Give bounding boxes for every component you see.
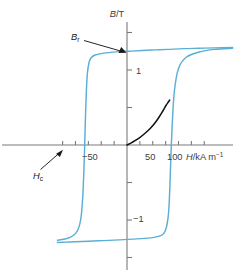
y-tick-label-1: 1 [136, 66, 141, 76]
upper-branch-curve [57, 48, 232, 241]
x-tick-label-neg50: −50 [82, 152, 98, 162]
x-axis-exponent: −1 [216, 151, 224, 158]
coercivity-arrow-line [41, 153, 61, 170]
x-tick-label-50: 50 [145, 152, 155, 162]
x-axis-unit: /kA m [193, 152, 217, 162]
coercivity-label: Hc [33, 171, 44, 182]
axes-group [2, 22, 233, 270]
remanence-subscript: r [77, 36, 80, 43]
remanence-arrow-head [119, 47, 127, 53]
y-tick-label-neg1: −1 [133, 214, 144, 224]
remanence-annotation: Br [71, 32, 127, 53]
coercivity-arrow-head [56, 150, 63, 157]
coercivity-subscript: c [40, 175, 44, 182]
y-axis-label: B/T [110, 9, 125, 19]
hysteresis-plot-svg: 1 −1 −50 50 100 B/T H/kA m−1 Br [0, 0, 243, 277]
remanence-label: Br [71, 32, 80, 43]
hysteresis-loop-figure: 1 −1 −50 50 100 B/T H/kA m−1 Br [0, 0, 243, 277]
x-axis-label: H/kA m−1 [186, 151, 224, 162]
y-axis-unit: /T [116, 9, 125, 19]
x-tick-label-100: 100 [167, 152, 183, 162]
remanence-arrow-line [84, 41, 123, 52]
initial-magnetization-curve [127, 100, 170, 145]
coercivity-annotation: Hc [33, 150, 63, 183]
